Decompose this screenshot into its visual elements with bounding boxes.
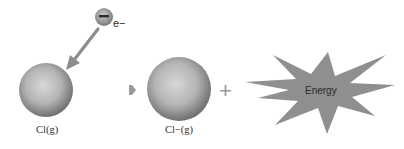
plus-operator: + bbox=[219, 78, 232, 103]
chlorine-atom-sphere bbox=[19, 63, 73, 117]
energy-label: Energy bbox=[305, 85, 337, 96]
energy-burst: Energy bbox=[245, 52, 395, 134]
chlorine-atom-label: Cl(g) bbox=[36, 124, 59, 136]
chloride-ion: Cl−(g) bbox=[147, 57, 211, 136]
electron: e− bbox=[95, 8, 126, 29]
chlorine-atom: Cl(g) bbox=[19, 63, 73, 136]
incoming-electron-arrow bbox=[66, 29, 98, 70]
electron-label: e− bbox=[113, 17, 126, 29]
minus-sign-icon bbox=[99, 15, 109, 17]
reaction-arrow-icon bbox=[129, 85, 136, 95]
electron-affinity-diagram: e− Cl(g) Cl−(g) + Energy bbox=[0, 0, 404, 149]
chloride-ion-sphere bbox=[147, 57, 211, 121]
chloride-ion-label: Cl−(g) bbox=[165, 124, 194, 136]
